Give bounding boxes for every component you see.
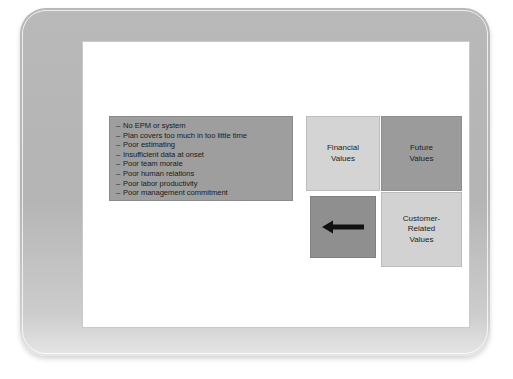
bullet-dash: –	[116, 140, 123, 150]
list-item: –Poor labor productivity	[116, 179, 286, 189]
list-item-label: Poor management commitment	[123, 188, 228, 197]
left-arrow-icon	[322, 220, 364, 234]
bullet-dash: –	[116, 121, 123, 131]
quadrant-customer-related-values: Customer- Related Values	[381, 192, 462, 267]
quadrant-label: Future Values	[410, 143, 434, 164]
slide-outer-frame: –No EPM or system –Plan covers too much …	[20, 8, 490, 356]
bullet-dash: –	[116, 169, 123, 179]
quadrant-arrow-callout	[310, 196, 376, 258]
list-item: –Plan covers too much in too little time	[116, 131, 286, 141]
list-item-label: Poor labor productivity	[123, 179, 197, 188]
quadrant-label: Financial Values	[327, 143, 359, 164]
list-item: –Poor team morale	[116, 159, 286, 169]
list-item: –Poor estimating	[116, 140, 286, 150]
issues-list-box: –No EPM or system –Plan covers too much …	[109, 116, 293, 201]
bullet-dash: –	[116, 159, 123, 169]
list-item: –Poor human relations	[116, 169, 286, 179]
list-item-label: Poor team morale	[123, 159, 183, 168]
list-item: –No EPM or system	[116, 121, 286, 131]
value-quadrant-grid: Financial Values Future Values Customer-…	[306, 116, 462, 267]
quadrant-label: Customer- Related Values	[403, 214, 440, 246]
list-item-label: Poor human relations	[123, 169, 194, 178]
quadrant-future-values: Future Values	[381, 116, 462, 191]
slide-canvas: –No EPM or system –Plan covers too much …	[82, 41, 470, 328]
bullet-dash: –	[116, 179, 123, 189]
list-item: –Poor management commitment	[116, 188, 286, 198]
list-item-label: Poor estimating	[123, 140, 175, 149]
list-item-label: Plan covers too much in too little time	[123, 131, 247, 140]
bullet-dash: –	[116, 150, 123, 160]
bullet-dash: –	[116, 188, 123, 198]
bullet-dash: –	[116, 131, 123, 141]
list-item-label: Insufficient data at onset	[123, 150, 204, 159]
list-item-label: No EPM or system	[123, 121, 186, 130]
quadrant-financial-values: Financial Values	[306, 116, 380, 191]
list-item: –Insufficient data at onset	[116, 150, 286, 160]
